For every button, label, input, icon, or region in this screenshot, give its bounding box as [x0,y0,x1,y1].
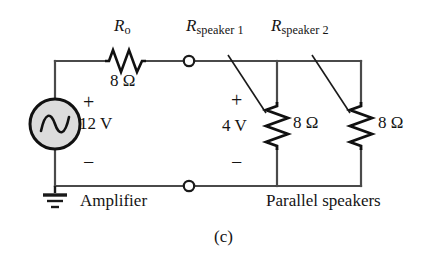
speaker1-resistor-subscript: speaker 1 [196,23,243,37]
speaker1-resistor-value: 8 Ω [293,114,318,131]
leader-line-speaker2 [312,55,350,113]
series-resistor-value: 8 Ω [110,72,135,89]
label-leader-lines [228,55,350,113]
source-minus-sign: − [83,152,94,172]
resistor-zigzag-icon-speaker2 [350,102,372,150]
resistor-zigzag-icon-speaker1 [266,102,288,150]
resistor-zigzag-icon-series [105,50,146,72]
source-plus-sign: + [83,92,94,112]
amplifier-block-label: Amplifier [80,192,147,209]
speaker-voltage-minus-sign: − [231,152,242,172]
speaker2-resistor-label: Rspeaker 2 [271,17,329,34]
speaker1-resistor-label: Rspeaker 1 [186,17,244,34]
series-resistor-name: R [114,16,124,35]
open-terminal-node-icon-bottom [184,181,194,191]
speaker2-resistor-name: R [271,16,281,35]
parallel-speakers-block-label: Parallel speakers [266,192,381,209]
speaker-voltage-plus-sign: + [231,90,242,110]
ac-voltage-source-icon [30,99,80,149]
speaker2-resistor-subscript: speaker 2 [281,23,328,37]
source-voltage-value: 12 V [79,115,112,132]
speaker1-resistor-name: R [186,16,196,35]
series-resistor-subscript: o [124,23,130,37]
circuit-diagram-figure: Ro 8 Ω Rspeaker 1 8 Ω Rspeaker 2 8 Ω + 1… [0,0,434,265]
speaker-voltage-value: 4 V [222,117,247,134]
open-terminal-node-icon-top [184,56,194,66]
series-resistor-label: Ro [114,17,131,34]
figure-caption: (c) [214,228,233,245]
speaker2-resistor-value: 8 Ω [378,114,403,131]
circuit-schematic-drawing [0,0,434,265]
ground-icon [43,186,67,207]
